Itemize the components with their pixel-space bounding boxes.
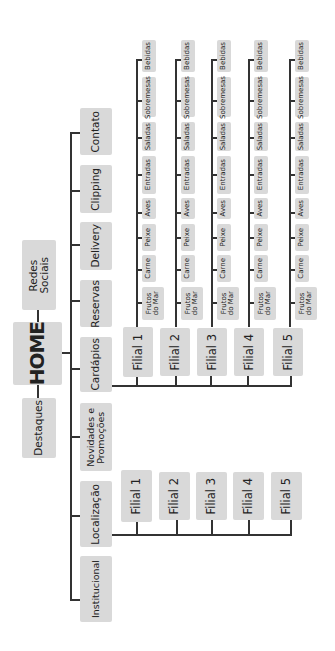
section-label: Reservas bbox=[90, 280, 101, 328]
connector-line bbox=[211, 520, 213, 535]
filial-label: Filial 4 bbox=[243, 334, 255, 371]
home-node[interactable]: HOME bbox=[13, 322, 62, 385]
section-delivery[interactable]: Delivery bbox=[80, 222, 112, 270]
menu-item-label: Saladas bbox=[257, 123, 264, 150]
menu-item-label: Frutosdo Mar bbox=[146, 291, 161, 315]
cardapio-filial-5[interactable]: Filial 5 bbox=[273, 328, 303, 376]
section-cardapios[interactable]: Cardápios bbox=[80, 337, 112, 392]
menu-item-label: Saladas bbox=[145, 123, 152, 150]
section-label: Contato bbox=[90, 111, 101, 153]
menu-item-saladas[interactable]: Saladas bbox=[254, 122, 268, 151]
menu-item-aves[interactable]: Aves bbox=[295, 198, 309, 219]
connector-line bbox=[37, 385, 39, 398]
filial-label: Filial 2 bbox=[168, 478, 180, 515]
localizacao-filial-1[interactable]: Filial 1 bbox=[121, 470, 152, 522]
menu-item-entradas[interactable]: Entradas bbox=[142, 156, 156, 194]
menu-item-entradas[interactable]: Entradas bbox=[181, 156, 195, 194]
menu-item-label: Saladas bbox=[184, 123, 191, 150]
cardapios-bus-line bbox=[112, 385, 292, 387]
section-label: Delivery bbox=[90, 224, 101, 268]
menu-item-peixe[interactable]: Peixe bbox=[142, 224, 156, 251]
menu-item-frutos-do-mar[interactable]: Frutosdo Mar bbox=[254, 287, 276, 320]
menu-item-aves[interactable]: Aves bbox=[217, 198, 231, 219]
menu-item-sobremesas[interactable]: Sobremesas bbox=[142, 77, 156, 117]
menu-item-carne[interactable]: Carne bbox=[217, 255, 231, 282]
menu-item-aves[interactable]: Aves bbox=[142, 198, 156, 219]
menu-item-entradas[interactable]: Entradas bbox=[295, 156, 309, 194]
menu-item-label: Aves bbox=[298, 200, 305, 216]
menu-item-carne[interactable]: Carne bbox=[295, 255, 309, 282]
menu-item-saladas[interactable]: Saladas bbox=[142, 122, 156, 151]
menu-item-label: Carne bbox=[145, 258, 152, 279]
menu-item-aves[interactable]: Aves bbox=[254, 198, 268, 219]
menu-item-entradas[interactable]: Entradas bbox=[254, 156, 268, 194]
menu-item-label: Entradas bbox=[220, 159, 227, 190]
menu-item-label: Sobremesas bbox=[257, 76, 264, 119]
menu-item-bebidas[interactable]: Bebidas bbox=[181, 40, 195, 72]
menu-item-peixe[interactable]: Peixe bbox=[217, 224, 231, 251]
menu-item-label: Carne bbox=[220, 258, 227, 279]
connector-line bbox=[247, 376, 249, 386]
section-reservas[interactable]: Reservas bbox=[80, 280, 112, 327]
filial-label: Filial 5 bbox=[282, 334, 294, 371]
connector-line bbox=[70, 515, 80, 517]
localizacao-filial-3[interactable]: Filial 3 bbox=[196, 472, 227, 520]
section-novidades-promocoes[interactable]: Novidades ePromoções bbox=[80, 403, 112, 471]
menu-item-label: Peixe bbox=[184, 228, 191, 246]
section-institucional[interactable]: Institucional bbox=[80, 556, 112, 622]
menu-item-sobremesas[interactable]: Sobremesas bbox=[295, 77, 309, 117]
menu-item-bebidas[interactable]: Bebidas bbox=[217, 40, 231, 72]
localizacao-filial-5[interactable]: Filial 5 bbox=[271, 472, 302, 520]
connector-line bbox=[70, 244, 80, 246]
menu-item-aves[interactable]: Aves bbox=[181, 198, 195, 219]
localizacao-filial-4[interactable]: Filial 4 bbox=[233, 472, 264, 520]
connector-line bbox=[70, 190, 80, 192]
menu-item-entradas[interactable]: Entradas bbox=[217, 156, 231, 194]
cardapio-filial-1[interactable]: Filial 1 bbox=[123, 327, 153, 377]
menu-item-frutos-do-mar[interactable]: Frutosdo Mar bbox=[295, 287, 317, 320]
menu-item-bebidas[interactable]: Bebidas bbox=[142, 40, 156, 72]
menu-item-label: Bebidas bbox=[220, 42, 227, 70]
menu-item-saladas[interactable]: Saladas bbox=[217, 122, 231, 151]
destaques-node[interactable]: Destaques bbox=[22, 398, 56, 458]
menu-item-frutos-do-mar[interactable]: Frutosdo Mar bbox=[181, 287, 203, 320]
menu-item-sobremesas[interactable]: Sobremesas bbox=[217, 77, 231, 117]
connector-line bbox=[176, 520, 178, 535]
menu-item-label: Bebidas bbox=[298, 42, 305, 70]
cardapio-filial-4[interactable]: Filial 4 bbox=[234, 328, 264, 376]
menu-item-peixe[interactable]: Peixe bbox=[295, 224, 309, 251]
menu-item-label: Aves bbox=[184, 200, 191, 216]
menu-item-label: Peixe bbox=[145, 228, 152, 246]
section-contato[interactable]: Contato bbox=[80, 108, 112, 155]
menu-item-peixe[interactable]: Peixe bbox=[254, 224, 268, 251]
menu-item-label: Entradas bbox=[145, 159, 152, 190]
redes-sociais-node[interactable]: RedesSociais bbox=[22, 240, 56, 310]
section-clipping[interactable]: Clipping bbox=[80, 165, 112, 213]
cardapio-filial-3[interactable]: Filial 3 bbox=[197, 328, 227, 376]
menu-item-carne[interactable]: Carne bbox=[254, 255, 268, 282]
localizacao-filial-2[interactable]: Filial 2 bbox=[159, 472, 190, 520]
section-label: Cardápios bbox=[90, 338, 101, 390]
menu-item-saladas[interactable]: Saladas bbox=[295, 122, 309, 151]
menu-item-label: Entradas bbox=[257, 159, 264, 190]
menu-item-frutos-do-mar[interactable]: Frutosdo Mar bbox=[217, 287, 239, 320]
section-localizacao[interactable]: Localização bbox=[80, 481, 112, 547]
menu-item-saladas[interactable]: Saladas bbox=[181, 122, 195, 151]
menu-item-bebidas[interactable]: Bebidas bbox=[295, 40, 309, 72]
menu-item-carne[interactable]: Carne bbox=[181, 255, 195, 282]
menu-item-sobremesas[interactable]: Sobremesas bbox=[254, 77, 268, 117]
menu-item-label: Sobremesas bbox=[184, 76, 191, 119]
menu-item-frutos-do-mar[interactable]: Frutosdo Mar bbox=[142, 287, 164, 320]
cardapio-filial-2[interactable]: Filial 2 bbox=[160, 328, 190, 376]
filial-label: Filial 4 bbox=[242, 478, 254, 515]
menu-item-label: Bebidas bbox=[145, 42, 152, 70]
menu-item-peixe[interactable]: Peixe bbox=[181, 224, 195, 251]
menu-item-label: Carne bbox=[184, 258, 191, 279]
menu-item-carne[interactable]: Carne bbox=[142, 255, 156, 282]
section-label: Clipping bbox=[90, 168, 101, 211]
menu-item-label: Frutosdo Mar bbox=[258, 291, 273, 315]
redes-sociais-label: RedesSociais bbox=[28, 257, 50, 294]
menu-item-bebidas[interactable]: Bebidas bbox=[254, 40, 268, 72]
menu-item-sobremesas[interactable]: Sobremesas bbox=[181, 77, 195, 117]
menu-item-label: Carne bbox=[298, 258, 305, 279]
